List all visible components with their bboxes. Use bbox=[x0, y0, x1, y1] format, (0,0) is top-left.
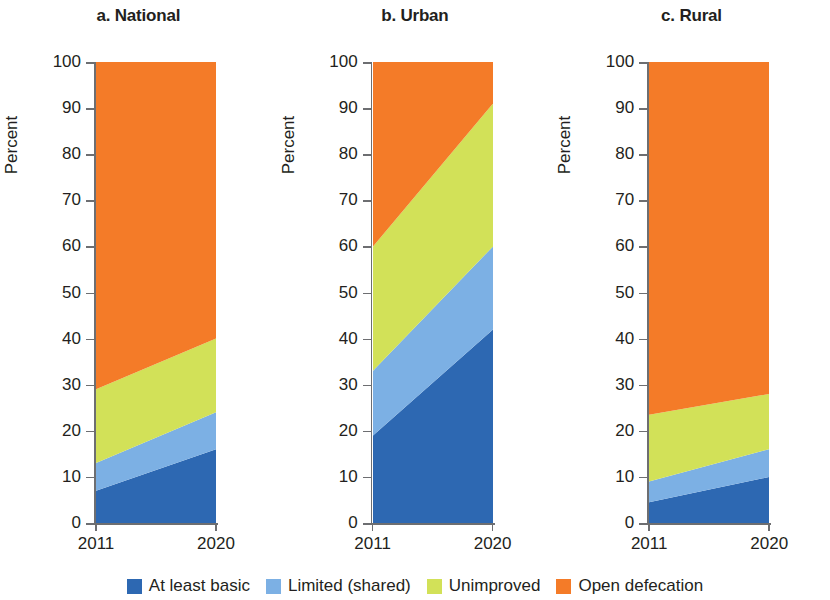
y-tick-label: 40 bbox=[615, 329, 634, 349]
y-tick-label: 40 bbox=[339, 329, 358, 349]
y-tick-mark bbox=[86, 431, 94, 433]
x-tick-mark bbox=[768, 523, 770, 531]
y-tick-mark bbox=[363, 154, 371, 156]
legend-item[interactable]: Unimproved bbox=[427, 576, 541, 596]
y-tick-label: 30 bbox=[62, 375, 81, 395]
legend-swatch-icon bbox=[127, 579, 142, 594]
y-tick-mark bbox=[86, 108, 94, 110]
y-tick-label: 0 bbox=[72, 513, 81, 533]
y-tick-label: 90 bbox=[339, 98, 358, 118]
chart-legend: At least basicLimited (shared)Unimproved… bbox=[0, 576, 830, 596]
y-tick-label: 10 bbox=[339, 467, 358, 487]
y-tick-label: 10 bbox=[615, 467, 634, 487]
y-tick-label: 80 bbox=[339, 144, 358, 164]
x-tick-mark bbox=[492, 523, 494, 531]
legend-swatch-icon bbox=[427, 579, 442, 594]
y-tick-label: 20 bbox=[62, 421, 81, 441]
y-tick-label: 0 bbox=[348, 513, 357, 533]
x-axis-line-urban bbox=[371, 523, 495, 525]
legend-label: Limited (shared) bbox=[288, 576, 411, 596]
y-tick-mark bbox=[639, 523, 647, 525]
y-tick-label: 50 bbox=[615, 283, 634, 303]
legend-label: Unimproved bbox=[449, 576, 541, 596]
area-series-group-urban bbox=[373, 62, 493, 523]
plot-area-national bbox=[96, 62, 216, 523]
y-tick-mark bbox=[639, 246, 647, 248]
y-tick-mark bbox=[363, 477, 371, 479]
area-open-defecation bbox=[96, 62, 216, 389]
y-tick-label: 80 bbox=[615, 144, 634, 164]
y-tick-mark bbox=[639, 154, 647, 156]
plot-svg-rural bbox=[649, 62, 769, 523]
y-tick-label: 90 bbox=[615, 98, 634, 118]
stacked-area-chart-figure: a. National Percent 01020304050607080901… bbox=[0, 0, 830, 600]
y-tick-label: 70 bbox=[62, 190, 81, 210]
y-tick-label: 60 bbox=[62, 236, 81, 256]
y-tick-mark bbox=[639, 293, 647, 295]
panel-title-national: a. National bbox=[0, 6, 277, 26]
y-tick-label: 100 bbox=[329, 52, 357, 72]
y-tick-mark bbox=[363, 62, 371, 64]
y-tick-mark bbox=[363, 431, 371, 433]
x-tick-mark bbox=[372, 523, 374, 531]
y-tick-label: 30 bbox=[615, 375, 634, 395]
legend-swatch-icon bbox=[556, 579, 571, 594]
y-tick-label: 60 bbox=[339, 236, 358, 256]
x-tick-mark bbox=[95, 523, 97, 531]
y-tick-mark bbox=[639, 385, 647, 387]
y-tick-label: 0 bbox=[625, 513, 634, 533]
y-tick-mark bbox=[86, 477, 94, 479]
panel-title-rural: c. Rural bbox=[553, 6, 830, 26]
y-tick-mark bbox=[363, 200, 371, 202]
legend-swatch-icon bbox=[266, 579, 281, 594]
legend-item[interactable]: At least basic bbox=[127, 576, 250, 596]
area-series-group-rural bbox=[649, 62, 769, 523]
x-axis-line-rural bbox=[647, 523, 771, 525]
y-tick-mark bbox=[86, 200, 94, 202]
y-tick-mark bbox=[363, 293, 371, 295]
y-tick-label: 20 bbox=[615, 421, 634, 441]
y-tick-label: 50 bbox=[62, 283, 81, 303]
y-axis-label-rural: Percent bbox=[555, 70, 575, 220]
x-tick-label: 2011 bbox=[78, 534, 115, 554]
y-tick-mark bbox=[363, 246, 371, 248]
y-tick-mark bbox=[639, 108, 647, 110]
y-tick-label: 90 bbox=[62, 98, 81, 118]
x-tick-label: 2011 bbox=[354, 534, 391, 554]
plot-area-urban bbox=[373, 62, 493, 523]
y-tick-label: 70 bbox=[339, 190, 358, 210]
y-tick-mark bbox=[363, 385, 371, 387]
plot-svg-urban bbox=[373, 62, 493, 523]
y-tick-mark bbox=[363, 339, 371, 341]
y-tick-mark bbox=[86, 62, 94, 64]
area-open-defecation bbox=[649, 62, 769, 415]
y-tick-label: 50 bbox=[339, 283, 358, 303]
y-tick-mark bbox=[86, 523, 94, 525]
x-tick-label: 2020 bbox=[474, 534, 512, 554]
y-tick-mark bbox=[86, 293, 94, 295]
y-tick-mark bbox=[639, 339, 647, 341]
y-tick-mark bbox=[86, 339, 94, 341]
panel-title-urban: b. Urban bbox=[277, 6, 554, 26]
y-axis-label-national: Percent bbox=[2, 70, 22, 220]
y-tick-label: 70 bbox=[615, 190, 634, 210]
y-tick-mark bbox=[639, 200, 647, 202]
y-tick-mark bbox=[639, 477, 647, 479]
panel-urban: b. Urban Percent 01020304050607080901002… bbox=[277, 0, 554, 560]
legend-item[interactable]: Limited (shared) bbox=[266, 576, 411, 596]
y-tick-label: 40 bbox=[62, 329, 81, 349]
y-axis-label-urban: Percent bbox=[279, 70, 299, 220]
y-tick-mark bbox=[86, 246, 94, 248]
panel-row: a. National Percent 01020304050607080901… bbox=[0, 0, 830, 560]
y-tick-label: 60 bbox=[615, 236, 634, 256]
y-tick-mark bbox=[363, 523, 371, 525]
x-tick-mark bbox=[215, 523, 217, 531]
plot-svg-national bbox=[96, 62, 216, 523]
panel-national: a. National Percent 01020304050607080901… bbox=[0, 0, 277, 560]
legend-label: Open defecation bbox=[578, 576, 703, 596]
y-tick-mark bbox=[86, 385, 94, 387]
y-tick-mark bbox=[639, 431, 647, 433]
y-tick-label: 10 bbox=[62, 467, 81, 487]
legend-item[interactable]: Open defecation bbox=[556, 576, 703, 596]
y-tick-mark bbox=[363, 108, 371, 110]
